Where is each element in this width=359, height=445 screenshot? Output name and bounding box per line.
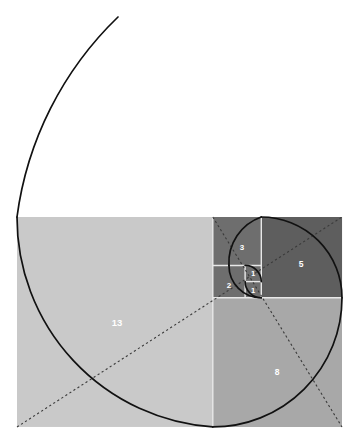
square-5 <box>261 217 342 298</box>
label-3: 3 <box>240 243 245 252</box>
label-5: 5 <box>299 259 304 269</box>
label-1a: 1 <box>251 286 255 295</box>
square-8 <box>213 298 342 427</box>
square-3 <box>213 217 261 265</box>
label-13: 13 <box>112 317 123 328</box>
figure-canvas: 13 8 5 3 2 1 1 <box>0 0 359 445</box>
label-2: 2 <box>227 281 232 290</box>
fibonacci-spiral-figure: 13 8 5 3 2 1 1 <box>0 0 359 445</box>
label-1b: 1 <box>251 269 255 278</box>
label-8: 8 <box>275 367 280 377</box>
